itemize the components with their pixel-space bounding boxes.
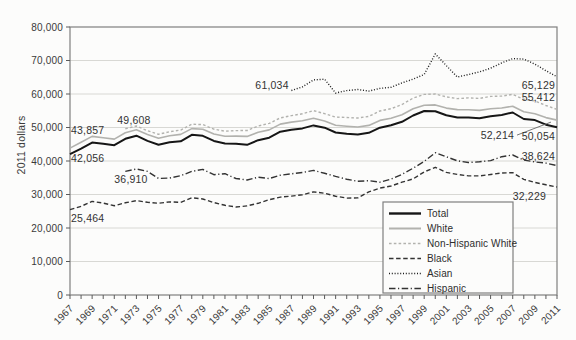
data-label-38-624: 38,624 (522, 150, 555, 162)
x-tick-label: 1969 (73, 302, 97, 326)
x-tick-label: 1993 (339, 302, 363, 326)
y-tick-label: 80,000 (31, 22, 63, 33)
legend-label-white: White (427, 223, 453, 234)
x-tick-label: 1971 (96, 302, 120, 326)
series-line-asian (291, 54, 557, 93)
x-tick-label: 1997 (383, 302, 407, 326)
x-tick-label: 1987 (273, 302, 297, 326)
data-label-52-214: 52,214 (481, 129, 514, 141)
data-label-36-910: 36,910 (114, 173, 147, 185)
income-line-chart: 2011 dollars 010,00020,00030,00040,00050… (0, 0, 576, 340)
x-tick-label: 1977 (162, 302, 186, 326)
x-tick-label: 1967 (51, 302, 75, 326)
x-tick-label: 1975 (140, 302, 164, 326)
data-label-65-129: 65,129 (522, 79, 555, 91)
y-tick-label: 50,000 (31, 122, 63, 133)
data-label-50-054: 50,054 (522, 130, 555, 142)
data-label-61-034: 61,034 (255, 79, 288, 91)
x-tick-label: 1991 (317, 302, 341, 326)
x-tick-label: 1981 (206, 302, 230, 326)
legend: TotalWhiteNon-Hispanic WhiteBlackAsianHi… (383, 202, 518, 294)
data-label-55-412: 55,412 (522, 91, 555, 103)
series-line-hispanic (125, 153, 557, 183)
y-tick-label: 70,000 (31, 55, 63, 66)
data-label-25-464: 25,464 (71, 212, 104, 224)
y-axis-title: 2011 dollars (15, 116, 27, 175)
y-tick-label: 0 (57, 290, 63, 301)
series-line-white (70, 105, 557, 148)
x-tick-label: 2007 (494, 302, 518, 326)
plot-area: 010,00020,00030,00040,00050,00060,00070,… (31, 22, 562, 327)
data-label-43-857: 43,857 (71, 124, 104, 136)
legend-label-non-hispanic-white: Non-Hispanic White (427, 238, 518, 249)
data-label-49-608: 49,608 (117, 114, 150, 126)
x-tick-label: 1989 (295, 302, 319, 326)
legend-label-total: Total (427, 208, 449, 219)
y-tick-label: 30,000 (31, 189, 63, 200)
x-tick-label: 1995 (361, 302, 385, 326)
x-tick-label: 1999 (406, 302, 430, 326)
y-tick-label: 40,000 (31, 156, 63, 167)
data-label-32-229: 32,229 (513, 190, 546, 202)
legend-label-black: Black (427, 253, 453, 264)
data-label-42-056: 42,056 (71, 152, 104, 164)
y-tick-label: 20,000 (31, 223, 63, 234)
x-tick-label: 1983 (228, 302, 252, 326)
y-tick-label: 60,000 (31, 89, 63, 100)
chart-page: 2011 dollars 010,00020,00030,00040,00050… (0, 0, 576, 340)
y-tick-label: 10,000 (31, 256, 63, 267)
x-tick-label: 1985 (251, 302, 275, 326)
x-tick-label: 2005 (472, 302, 496, 326)
x-tick-label: 1973 (118, 302, 142, 326)
x-tick-label: 2009 (516, 302, 540, 326)
legend-label-asian: Asian (427, 268, 453, 279)
x-tick-label: 1979 (184, 302, 208, 326)
x-tick-label: 2003 (450, 302, 474, 326)
x-tick-label: 2001 (428, 302, 452, 326)
x-tick-label: 2011 (539, 302, 563, 326)
legend-label-hispanic: Hispanic (427, 283, 466, 294)
